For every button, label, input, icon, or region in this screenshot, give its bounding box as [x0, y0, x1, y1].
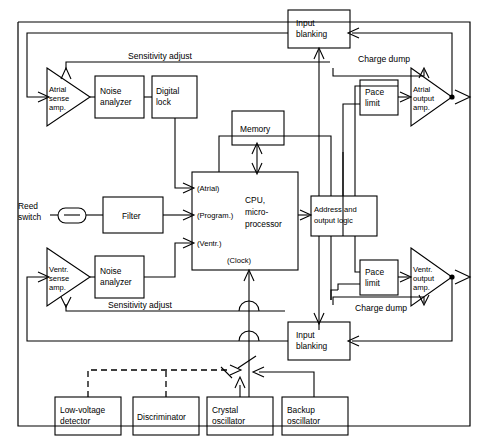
wire-bus-down-b-to-pace-ventr	[331, 290, 338, 300]
ventr-output-node	[449, 274, 454, 279]
cpu-port-ventr: (Ventr.)	[197, 239, 222, 248]
crystal-oscillator-label-2: oscillator	[212, 416, 245, 426]
wire-digital-lock-to-cpu-atrial	[175, 118, 192, 188]
label-charge-dump-ventr: Charge dump	[355, 303, 407, 313]
low-voltage-detector-label-1: Low-voltage	[60, 405, 106, 415]
atrial-output-node	[449, 94, 454, 99]
wire-sensitivity-adjust-ventr	[66, 304, 285, 311]
cpu-label-3: processor	[245, 219, 282, 229]
backup-oscillator-label-1: Backup	[287, 405, 315, 415]
wire-bus-down-d	[355, 236, 360, 272]
wire-low-voltage-detector-dashed	[88, 370, 228, 397]
pace-limit-atrial-label-1: Pace	[365, 87, 384, 97]
ventr-output-amp-label-2: output	[413, 274, 435, 283]
noise-analyzer-atrial-label-1: Noise	[100, 86, 122, 96]
arrowhead-atrial-output-terminal	[455, 90, 470, 104]
ventr-output-amp-label-3: amp.	[413, 283, 430, 292]
noise-analyzer-ventr-label-1: Noise	[100, 266, 122, 276]
pacemaker-block-diagram: Sensitivity adjust Atrial sense amp. Noi…	[0, 0, 487, 448]
atrial-output-amp-label-1: Atrial	[413, 85, 431, 94]
crystal-oscillator-label-1: Crystal	[212, 405, 238, 415]
digital-lock-label-2: lock	[156, 97, 172, 107]
label-charge-dump-atrial: Charge dump	[358, 54, 410, 64]
slash-mark-clock-bus-1	[238, 356, 256, 368]
memory-label: Memory	[240, 124, 271, 134]
slash-mark-clock-bus-2	[221, 367, 232, 378]
reed-switch-label-2: switch	[18, 212, 42, 222]
address-output-logic-label-1: Address and	[314, 205, 357, 214]
noise-analyzer-atrial-label-2: analyzer	[100, 97, 132, 107]
wire-ventr-noise-to-cpu-ventr	[144, 243, 192, 277]
ventr-output-amp-label-1: Ventr.	[413, 265, 432, 274]
wire-backup-osc-to-bus	[259, 372, 314, 397]
label-sensitivity-adjust-atrial: Sensitivity adjust	[128, 51, 193, 61]
arrowhead-ventr-output-terminal	[455, 270, 470, 284]
address-output-logic-label-2: output logic	[314, 216, 353, 225]
input-blanking-bottom-label-1: Input	[296, 330, 315, 340]
ventr-sense-amp-label-1: Ventr.	[49, 265, 68, 274]
discriminator-label: Discriminator	[137, 412, 186, 422]
digital-lock-label-1: Digital	[156, 86, 179, 96]
cpu-label-2: micro-	[245, 207, 268, 217]
atrial-output-amp-label-2: output	[413, 94, 435, 103]
input-blanking-top-label-1: Input	[296, 18, 315, 28]
low-voltage-detector-label-2: detector	[60, 416, 90, 426]
cpu-port-atrial: (Atrial)	[197, 184, 220, 193]
atrial-sense-amp-label-3: amp.	[49, 103, 66, 112]
label-sensitivity-adjust-ventr: Sensitivity adjust	[108, 300, 173, 310]
wire-sensitivity-adjust-atrial	[66, 62, 330, 70]
wire-bus-top-tie	[219, 136, 331, 172]
input-blanking-bottom-label-2: blanking	[296, 341, 328, 351]
cpu-port-clock: (Clock)	[227, 256, 252, 265]
filter-label: Filter	[122, 211, 141, 221]
atrial-sense-amp-label-2: sense	[49, 94, 69, 103]
atrial-output-amp-label-3: amp.	[413, 103, 430, 112]
noise-analyzer-ventr-label-2: analyzer	[100, 277, 132, 287]
wire-charge-dump-atrial	[333, 68, 424, 76]
input-blanking-top-label-2: blanking	[296, 29, 328, 39]
cpu-port-program: (Program.)	[197, 211, 234, 220]
pace-limit-ventr-label-2: limit	[365, 278, 381, 288]
ventr-sense-amp-label-2: sense	[49, 274, 69, 283]
wire-addr-to-pace-limit-atrial	[343, 104, 360, 200]
reed-switch-label-1: Reed	[18, 201, 38, 211]
cpu-label-1: CPU,	[245, 195, 265, 205]
diagram-border	[18, 22, 470, 426]
ventr-sense-amp-label-3: amp.	[49, 283, 66, 292]
pace-limit-ventr-label-1: Pace	[365, 267, 384, 277]
backup-oscillator-label-2: oscillator	[287, 416, 320, 426]
atrial-sense-amp-label-1: Atrial	[49, 85, 67, 94]
wire-addr-to-pace-limit-ventr	[338, 284, 360, 290]
pace-limit-atrial-label-2: limit	[365, 98, 381, 108]
